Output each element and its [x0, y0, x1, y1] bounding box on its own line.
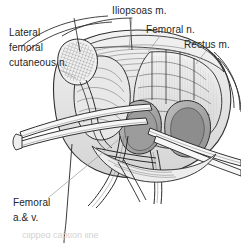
label-femoral-nerve: Femoral n. — [146, 22, 195, 37]
skin-edge-lower-left — [64, 144, 72, 243]
retractor-blade-tip — [13, 134, 22, 150]
clipped-caption-text: clipped caption line — [22, 233, 99, 240]
anatomical-figure: Lateral femoral cutaneous n. Iliopsoas m… — [0, 0, 241, 245]
label-rectus-muscle: Rectus m. — [184, 37, 230, 52]
label-lateral-femoral-cutaneous-nerve: Lateral femoral cutaneous n. — [9, 25, 67, 70]
label-iliopsoas-muscle: Iliopsoas m. — [112, 3, 167, 18]
clipped-caption: clipped caption line — [0, 233, 241, 245]
label-femoral-artery-and-vein: Femoral a.& v. — [13, 195, 50, 225]
